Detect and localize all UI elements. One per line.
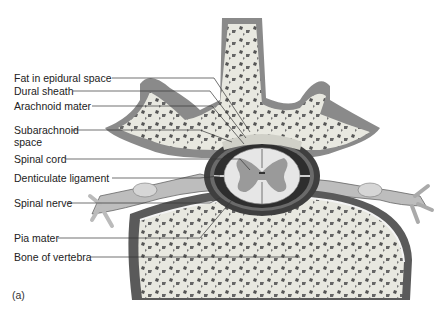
spinal-cord-cross-section-illustration [0,0,448,316]
label-spinal-nerve: Spinal nerve [14,197,72,209]
label-pia-mater: Pia mater [14,232,59,244]
panel-label: (a) [12,289,25,301]
label-dural-sheath: Dural sheath [14,85,74,97]
label-spinal-cord: Spinal cord [14,153,67,165]
dorsal-root-ganglion-left [133,183,157,197]
label-arachnoid-mater: Arachnoid mater [14,100,91,112]
label-fat-in-epidural-space: Fat in epidural space [14,72,111,84]
label-denticulate-ligament: Denticulate ligament [14,172,109,184]
label-subarachnoid: Subarachnoid [14,124,79,136]
label-bone-of-vertebra: Bone of vertebra [14,251,92,263]
central-canal [259,172,265,174]
dorsal-root-ganglion-right [358,183,382,197]
label-subarachnoid-space: space [14,136,42,148]
